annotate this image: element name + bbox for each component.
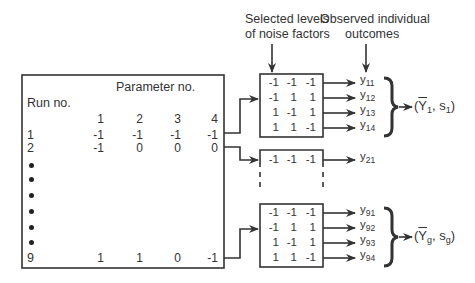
noise-level: 1 (281, 251, 297, 263)
noise-level: 1 (300, 91, 316, 103)
param-number: 4 (196, 112, 218, 126)
noise-level: -1 (300, 206, 316, 218)
param-number: 1 (82, 112, 104, 126)
ellipsis-dot (29, 177, 34, 182)
noise-level: -1 (263, 221, 279, 233)
noise-level: -1 (281, 106, 297, 118)
run-number: 1 (27, 128, 34, 142)
diagram-lines (0, 0, 475, 283)
param-value: 0 (121, 141, 143, 155)
outcome-label: y14 (360, 118, 375, 133)
outcome-label: y12 (360, 88, 375, 103)
ellipsis-dot (29, 193, 34, 198)
noise-level: -1 (263, 206, 279, 218)
param-value: 0 (159, 251, 181, 265)
noise-level: 1 (263, 106, 279, 118)
noise-level: 1 (281, 121, 297, 133)
param-value: -1 (196, 251, 218, 265)
noise-levels-header: Selected levels (245, 12, 329, 26)
outcomes-header-2: outcomes (345, 27, 399, 41)
run-label: Run no. (27, 96, 71, 110)
run-number: 9 (27, 251, 34, 265)
noise-level: -1 (263, 76, 279, 88)
outcome-label: y94 (360, 248, 375, 263)
noise-level: -1 (281, 153, 297, 165)
param-value: -1 (82, 141, 104, 155)
noise-level: 1 (281, 221, 297, 233)
noise-level: 1 (300, 106, 316, 118)
outcome-label: y92 (360, 218, 375, 233)
outcome-label: y11 (360, 73, 375, 88)
noise-level: 1 (300, 236, 316, 248)
noise-level: 1 (281, 91, 297, 103)
noise-level: 1 (263, 121, 279, 133)
outcome-label: y91 (360, 203, 375, 218)
outcome-label: y13 (360, 103, 375, 118)
noise-level: -1 (300, 251, 316, 263)
result-run-9: (Yg, sg) (414, 228, 455, 245)
ellipsis-dot (29, 240, 34, 245)
noise-level: -1 (281, 206, 297, 218)
noise-level: -1 (263, 91, 279, 103)
noise-level: -1 (300, 153, 316, 165)
noise-level: -1 (300, 76, 316, 88)
noise-level: 1 (263, 251, 279, 263)
noise-level: -1 (281, 76, 297, 88)
noise-level: -1 (263, 153, 279, 165)
param-value: 1 (121, 251, 143, 265)
outcome-label: y21 (360, 150, 375, 165)
outcome-label: y93 (360, 233, 375, 248)
noise-levels-header-2: of noise factors (245, 27, 330, 41)
param-value: 0 (196, 141, 218, 155)
param-value: 0 (159, 141, 181, 155)
param-value: -1 (196, 128, 218, 142)
param-number: 2 (121, 112, 143, 126)
result-run-1: (Y1, s1) (414, 98, 455, 115)
ellipsis-dot (29, 209, 34, 214)
outcomes-header: Observed individual (320, 12, 430, 26)
noise-level: 1 (263, 236, 279, 248)
param-value: 1 (82, 251, 104, 265)
param-value: -1 (82, 128, 104, 142)
noise-level: 1 (300, 221, 316, 233)
ellipsis-dot (29, 225, 34, 230)
noise-level: -1 (281, 236, 297, 248)
ellipsis-dot (29, 163, 34, 168)
param-number: 3 (159, 112, 181, 126)
noise-level: -1 (300, 121, 316, 133)
run-number: 2 (27, 141, 34, 155)
param-value: -1 (121, 128, 143, 142)
parameter-title: Parameter no. (116, 80, 195, 94)
param-value: -1 (159, 128, 181, 142)
